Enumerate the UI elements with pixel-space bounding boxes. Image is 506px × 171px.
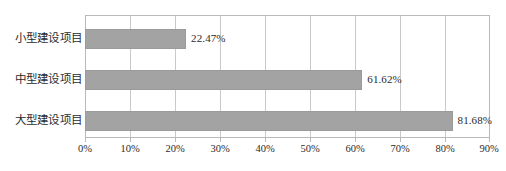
tick-mark-50	[310, 138, 311, 142]
bar-medium	[85, 70, 362, 90]
bar-value-medium: 61.62%	[367, 73, 402, 85]
bar-large	[85, 111, 453, 131]
category-label-large: 大型建设项目	[0, 114, 82, 127]
tick-label-10: 10%	[110, 143, 150, 155]
tick-mark-80	[445, 138, 446, 142]
tick-mark-30	[220, 138, 221, 142]
tick-mark-0	[85, 138, 86, 142]
tick-label-40: 40%	[245, 143, 285, 155]
tick-label-80: 80%	[425, 143, 465, 155]
bar-chart: 小型建设项目 中型建设项目 大型建设项目 22.47% 61.62% 81.68…	[0, 0, 506, 171]
tick-mark-70	[400, 138, 401, 142]
tick-label-50: 50%	[290, 143, 330, 155]
tick-mark-20	[175, 138, 176, 142]
tick-label-60: 60%	[335, 143, 375, 155]
bar-value-small: 22.47%	[191, 32, 226, 44]
tick-mark-10	[130, 138, 131, 142]
tick-label-0: 0%	[65, 143, 105, 155]
tick-label-20: 20%	[155, 143, 195, 155]
tick-mark-60	[355, 138, 356, 142]
bar-small	[85, 29, 186, 49]
tick-label-90: 90%	[469, 143, 506, 155]
tick-label-70: 70%	[380, 143, 420, 155]
tick-label-30: 30%	[200, 143, 240, 155]
plot-area	[85, 15, 490, 138]
tick-mark-90	[489, 138, 490, 142]
category-label-medium: 中型建设项目	[0, 73, 82, 86]
category-label-small: 小型建设项目	[0, 32, 82, 45]
bar-value-large: 81.68%	[458, 114, 493, 126]
tick-mark-40	[265, 138, 266, 142]
